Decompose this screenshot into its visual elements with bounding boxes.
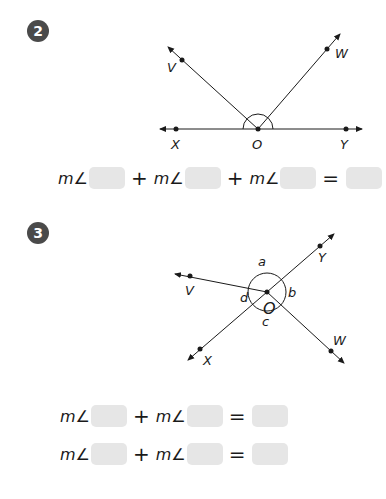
answer-box[interactable] — [187, 405, 223, 427]
equals-sign: = — [229, 404, 246, 428]
equals-sign: = — [322, 166, 339, 190]
label-O: O — [263, 299, 276, 318]
answer-box[interactable] — [91, 443, 127, 465]
equation-2: m∠ + m∠ + m∠ = — [58, 166, 382, 190]
angle-measure-label: m∠ — [60, 445, 90, 464]
answer-box[interactable] — [252, 405, 288, 427]
label-a: a — [258, 254, 266, 269]
plus-sign: + — [131, 166, 148, 190]
label-V: V — [185, 283, 195, 298]
equation-3a: m∠ + m∠ = — [60, 404, 288, 428]
label-b: b — [288, 285, 296, 300]
label-Y: Y — [318, 250, 327, 265]
problem-number-badge: 3 — [27, 222, 49, 244]
angle-measure-label: m∠ — [156, 407, 186, 426]
equation-3b: m∠ + m∠ = — [60, 442, 288, 466]
answer-box[interactable] — [252, 443, 288, 465]
answer-box[interactable] — [187, 443, 223, 465]
plus-sign: + — [133, 442, 150, 466]
answer-box[interactable] — [280, 167, 316, 189]
angle-measure-label: m∠ — [58, 169, 88, 188]
answer-box[interactable] — [346, 167, 382, 189]
equals-sign: = — [229, 442, 246, 466]
angle-measure-label: m∠ — [249, 169, 279, 188]
label-W: W — [333, 333, 347, 348]
label-V: V — [167, 60, 177, 75]
label-d: d — [240, 290, 249, 305]
angle-diagram-2 — [160, 34, 362, 129]
answer-box[interactable] — [91, 405, 127, 427]
label-O: O — [252, 137, 262, 152]
answer-box[interactable] — [89, 167, 125, 189]
label-Y: Y — [340, 137, 349, 152]
angle-measure-label: m∠ — [154, 169, 184, 188]
plus-sign: + — [133, 404, 150, 428]
angle-measure-label: m∠ — [60, 407, 90, 426]
label-W: W — [335, 46, 349, 61]
label-X: X — [202, 353, 213, 368]
angle-measure-label: m∠ — [156, 445, 186, 464]
answer-box[interactable] — [185, 167, 221, 189]
label-X: X — [170, 137, 181, 152]
plus-sign: + — [227, 166, 244, 190]
